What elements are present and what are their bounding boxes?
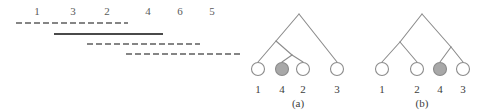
panel-caption-a: (a) <box>292 98 304 109</box>
panel-caption-b: (b) <box>416 98 429 109</box>
leaf-label-2: 2 <box>300 84 306 95</box>
interval-tick-label-4: 4 <box>145 6 151 17</box>
interval-tick-label-5: 5 <box>209 6 215 17</box>
leaf-label-3: 3 <box>334 84 340 95</box>
interval-tick-label-2: 2 <box>104 6 110 17</box>
figure-root: 1324651423(a)1243(b) <box>0 0 484 112</box>
leaf-label-3: 3 <box>460 84 466 95</box>
leaf-label-2: 2 <box>414 84 420 95</box>
leaf-label-1: 1 <box>379 84 385 95</box>
leaf-label-1: 1 <box>255 84 261 95</box>
interval-tick-label-6: 6 <box>177 6 183 17</box>
interval-tick-label-1: 1 <box>34 6 40 17</box>
leaf-label-4: 4 <box>437 84 443 95</box>
interval-tick-label-3: 3 <box>70 6 76 17</box>
text-labels-layer: 1324651423(a)1243(b) <box>0 0 484 112</box>
leaf-label-4: 4 <box>279 84 285 95</box>
